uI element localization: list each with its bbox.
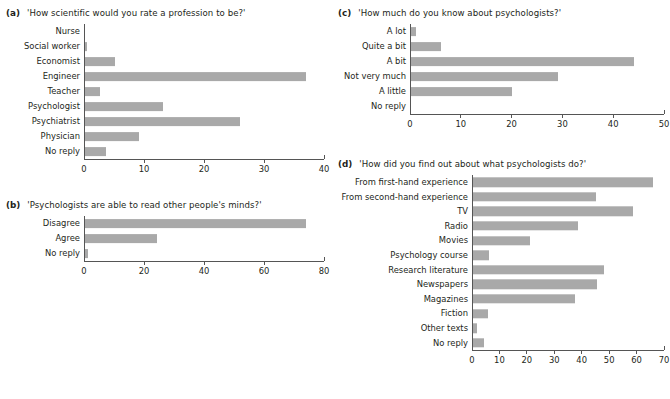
category-label: Nurse [6,27,84,35]
x-axis-tick [144,261,145,265]
x-axis-tick [609,350,610,354]
panel-b-chart: DisagreeAgreeNo reply 020406080 [6,216,324,277]
panel-d-letter: (d) [338,159,352,170]
bar [85,249,88,259]
x-axis-tick-label: 20 [139,266,150,276]
x-axis-tick [264,159,265,163]
x-axis-tick-label: 40 [199,266,210,276]
bar-row: Quite a bit [338,39,664,54]
x-axis-tick [499,350,500,354]
category-label: No reply [338,102,410,110]
bar [85,87,100,97]
x-axis-tick [410,110,411,114]
bar-row: Physician [6,129,324,144]
bar-row: Radio [338,219,664,234]
panel-a-xaxis: 010203040 [84,159,324,175]
panel-c-axis-wrap: 01020304050 [338,114,664,130]
x-axis-tick-label: 80 [319,266,330,276]
bar [473,251,489,260]
bar [411,27,416,37]
panel-a-axis-wrap: 010203040 [6,159,324,175]
bar-row: Engineer [6,69,324,84]
x-axis-tick [664,110,665,114]
bar [85,42,87,52]
panel-d-xaxis: 010203040506070 [472,350,664,366]
bar [473,207,633,216]
bar-track [84,129,324,144]
x-axis-tick [84,155,85,159]
category-label: From first-hand experience [338,178,472,186]
x-axis-tick [554,350,555,354]
bar-row: Psychology course [338,248,664,263]
x-axis-tick-label: 40 [576,355,587,365]
panel-d-title: (d) 'How did you find out about what psy… [338,159,664,170]
x-axis-tick [613,114,614,118]
panel-c-chart: A lotQuite a bitA bitNot very muchA litt… [338,24,664,130]
bar-track [84,39,324,54]
x-axis-tick [264,261,265,265]
bar-row: A bit [338,54,664,69]
x-axis-tick [472,346,473,350]
bar-track [410,99,664,114]
bar [85,117,240,127]
category-label: From second-hand experience [338,193,472,201]
bar-track [84,99,324,114]
x-axis-tick-label: 60 [631,355,642,365]
panel-c-letter: (c) [338,8,351,19]
x-axis-tick [460,114,461,118]
bar-row: Agree [6,231,324,246]
bar-track [410,69,664,84]
panel-b-letter: (b) [6,200,20,211]
bar-track [84,84,324,99]
x-axis-tick-label: 40 [608,119,619,129]
bar-row: A lot [338,24,664,39]
category-label: Teacher [6,87,84,95]
category-label: No reply [338,339,472,347]
bar-row: Not very much [338,69,664,84]
x-axis-tick [324,257,325,261]
x-axis-tick-label: 10 [139,164,150,174]
bar [411,57,634,67]
bar-track [410,84,664,99]
bar-row: Other texts [338,321,664,336]
bar-track [472,190,664,205]
bar [411,42,441,52]
category-label: Engineer [6,72,84,80]
category-label: A bit [338,57,410,65]
x-axis-tick [581,350,582,354]
category-label: Movies [338,236,472,244]
bar-track [472,336,664,351]
bar-track [472,204,664,219]
bar-track [472,233,664,248]
bar-track [410,54,664,69]
bar-row: Research literature [338,263,664,278]
bar-track [84,114,324,129]
bar-track [472,219,664,234]
bar-track [84,144,324,159]
bar-track [410,39,664,54]
category-label: Not very much [338,72,410,80]
panel-d-chart: From first-hand experienceFrom second-ha… [338,175,664,366]
bar [473,221,578,230]
bar [473,178,653,187]
bar-row: Fiction [338,306,664,321]
bar-row: Movies [338,233,664,248]
x-axis-tick-label: 30 [259,164,270,174]
panel-c-xaxis: 01020304050 [410,114,664,130]
bar-track [84,246,324,261]
chart-panel-a: (a) 'How scientific would you rate a pro… [6,8,324,175]
panel-a-title: (a) 'How scientific would you rate a pro… [6,8,324,19]
bar-row: No reply [338,336,664,351]
bar-row: From first-hand experience [338,175,664,190]
bar [85,147,106,157]
category-label: A little [338,87,410,95]
panel-b-axis-wrap: 020406080 [6,261,324,277]
panel-c-question: 'How much do you know about psychologist… [358,8,561,19]
x-axis-tick-label: 70 [659,355,670,365]
bar [473,294,575,303]
category-label: Social worker [6,42,84,50]
x-axis-tick [204,159,205,163]
category-label: Economist [6,57,84,65]
x-axis-tick-label: 0 [81,266,86,276]
panel-b-rows: DisagreeAgreeNo reply [6,216,324,261]
